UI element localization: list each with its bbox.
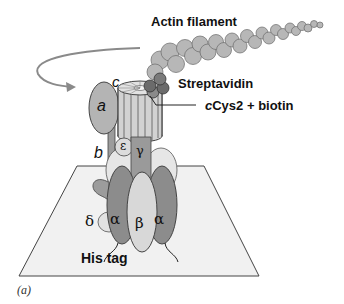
subunit-a-label: a — [97, 97, 106, 115]
actin-filament-label: Actin filament — [151, 14, 237, 29]
subunit-epsilon-label: ε — [120, 139, 126, 153]
subunit-delta-label: δ — [85, 212, 94, 230]
subunit-alpha-right-label: α — [154, 210, 164, 228]
rotation-arrow-icon — [37, 48, 140, 87]
subunit-alpha-left-label: α — [110, 210, 120, 228]
ccys2-biotin-label: cCys2 + biotin — [205, 98, 294, 113]
subunit-gamma-label: γ — [136, 143, 144, 158]
subunit-b-label: b — [94, 144, 103, 162]
arrowhead-icon — [66, 82, 76, 92]
subunit-c-label: c — [112, 73, 120, 90]
streptavidin-label: Streptavidin — [178, 76, 253, 91]
panel-label: (a) — [17, 283, 31, 298]
ccys2-rest: Cys2 + biotin — [212, 98, 293, 113]
subunit-beta — [127, 172, 157, 252]
diagram-graphics — [0, 0, 344, 304]
actin-filament — [147, 21, 323, 81]
subunit-beta-label: β — [135, 214, 144, 232]
his-tag-label: His tag — [81, 250, 128, 266]
atp-synthase-diagram: Actin filament Streptavidin cCys2 + biot… — [0, 0, 344, 304]
